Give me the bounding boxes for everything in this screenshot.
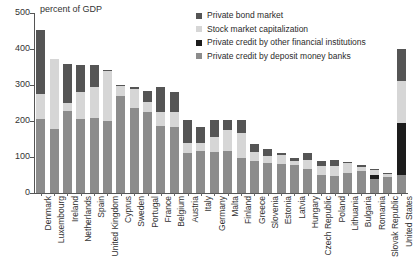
y-axis-tick-label: 500 <box>2 8 30 17</box>
bar-segment <box>343 163 352 172</box>
bar-segment <box>397 175 406 193</box>
bar-column[interactable] <box>343 162 352 193</box>
bar-column[interactable] <box>237 120 246 193</box>
x-axis-tick-label: Finland <box>244 196 253 224</box>
bar-segment <box>210 137 219 153</box>
bar-segment <box>36 30 45 94</box>
legend-item[interactable]: Private credit by other financial instit… <box>196 36 412 50</box>
bar-segment <box>196 151 205 193</box>
x-axis-tick-label: Romania <box>378 196 387 230</box>
x-axis-tick-label: Italy <box>204 196 213 212</box>
chart-container: percent of GDP 0100200300400500 DenmarkL… <box>0 0 414 275</box>
legend-item[interactable]: Stock market capitalization <box>196 23 412 37</box>
bar-column[interactable] <box>303 153 312 193</box>
legend-item[interactable]: Private credit by deposit money banks <box>196 50 412 64</box>
bar-segment <box>330 166 339 176</box>
bar-segment <box>370 179 379 193</box>
legend-item-label: Private credit by deposit money banks <box>207 52 351 61</box>
legend-swatch-icon <box>196 13 202 19</box>
bar-segment <box>290 165 299 193</box>
bar-segment <box>263 156 272 164</box>
bar-segment <box>143 102 152 113</box>
bar-column[interactable] <box>397 49 406 193</box>
bar-column[interactable] <box>383 173 392 193</box>
bar-column[interactable] <box>63 64 72 193</box>
y-axis-tick-label: 100 <box>2 152 30 161</box>
bar-segment <box>170 127 179 193</box>
x-axis-tick-label: Ireland <box>71 196 80 222</box>
bar-segment <box>303 169 312 193</box>
bar-segment <box>303 160 312 169</box>
x-axis-tick-label: Slovenia <box>271 196 280 229</box>
x-axis-tick-label: Germany <box>218 196 227 231</box>
bar-column[interactable] <box>277 153 286 193</box>
bar-column[interactable] <box>317 161 326 193</box>
x-axis-tick-label: United States <box>405 196 414 247</box>
bar-column[interactable] <box>76 65 85 193</box>
bar-column[interactable] <box>183 120 192 193</box>
x-axis-tick-label: France <box>164 196 173 222</box>
bar-segment <box>50 59 59 129</box>
bar-segment <box>357 171 366 193</box>
bar-column[interactable] <box>116 85 125 193</box>
bar-column[interactable] <box>50 59 59 193</box>
bar-segment <box>63 64 72 104</box>
x-axis-tick-label: Cyprus <box>124 196 133 223</box>
bar-segment <box>250 144 259 152</box>
x-axis-tick-label: Estonia <box>284 196 293 224</box>
bar-segment <box>76 119 85 193</box>
bar-segment <box>237 158 246 193</box>
bar-column[interactable] <box>290 158 299 193</box>
x-axis-tick-label: United Kingdom <box>111 196 120 256</box>
bar-segment <box>263 163 272 193</box>
bar-segment <box>76 92 85 119</box>
bar-segment <box>143 112 152 193</box>
bar-column[interactable] <box>156 87 165 193</box>
bar-segment <box>90 65 99 87</box>
bar-segment <box>90 118 99 193</box>
bar-segment <box>210 120 219 136</box>
bar-segment <box>223 120 232 130</box>
bar-column[interactable] <box>143 91 152 193</box>
bar-column[interactable] <box>170 92 179 194</box>
bar-segment <box>223 151 232 193</box>
bar-column[interactable] <box>223 120 232 193</box>
bar-segment <box>397 81 406 122</box>
legend-swatch-icon <box>196 26 202 32</box>
y-axis-tick <box>30 157 34 158</box>
bar-column[interactable] <box>370 169 379 193</box>
bar-segment <box>116 86 125 95</box>
bar-segment <box>50 129 59 193</box>
bar-segment <box>156 112 165 126</box>
bar-column[interactable] <box>36 30 45 193</box>
legend-item[interactable]: Private bond market <box>196 9 412 23</box>
bar-column[interactable] <box>250 144 259 193</box>
x-axis-tick-label: Greece <box>258 196 267 224</box>
bar-column[interactable] <box>130 87 139 193</box>
y-axis-tick <box>30 121 34 122</box>
bar-segment <box>130 108 139 193</box>
bar-segment <box>116 96 125 193</box>
bar-column[interactable] <box>330 160 339 193</box>
legend-swatch-icon <box>196 53 202 59</box>
bar-segment <box>317 166 326 175</box>
x-axis-tick-label: Austria <box>191 196 200 222</box>
bar-column[interactable] <box>263 149 272 193</box>
bar-segment <box>156 87 165 112</box>
bar-column[interactable] <box>103 70 112 193</box>
bar-segment <box>237 133 246 157</box>
bar-segment <box>317 175 326 193</box>
bar-segment <box>143 91 152 102</box>
x-axis-tick-label: Portugal <box>151 196 160 228</box>
bar-column[interactable] <box>90 65 99 193</box>
bar-column[interactable] <box>196 127 205 193</box>
bar-segment <box>170 112 179 128</box>
bar-segment <box>36 119 45 193</box>
bar-segment <box>196 127 205 143</box>
x-axis-tick-label: Denmark <box>44 196 53 230</box>
bar-column[interactable] <box>357 165 366 193</box>
y-axis-tick <box>30 13 34 14</box>
y-axis-tick-label: 200 <box>2 116 30 125</box>
bar-column[interactable] <box>210 120 219 193</box>
bar-segment <box>343 173 352 193</box>
